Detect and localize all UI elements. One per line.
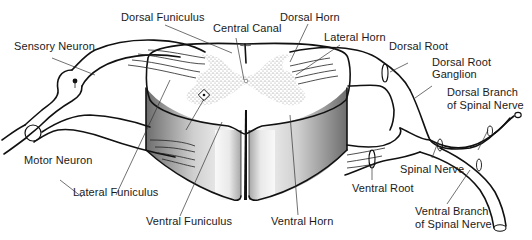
label-central-canal: Central Canal (213, 22, 282, 35)
label-ventral-horn: Ventral Horn (271, 215, 333, 228)
label-dorsal-branch-line1: Dorsal Branch (447, 86, 518, 99)
label-ventral-root: Ventral Root (352, 182, 414, 195)
label-dorsal-branch-line2: of Spinal Nerve (447, 99, 524, 112)
label-lateral-funiculus: Lateral Funiculus (73, 186, 158, 199)
label-sensory-neuron: Sensory Neuron (14, 40, 95, 53)
spinal-cord-diagram (0, 0, 532, 240)
label-ventral-funiculus: Ventral Funiculus (146, 215, 232, 228)
label-dorsal-root-ganglion-line2: Ganglion (432, 68, 477, 81)
label-lateral-horn: Lateral Horn (324, 31, 386, 44)
label-spinal-nerve: Spinal Nerve (400, 163, 464, 176)
label-dorsal-funiculus: Dorsal Funiculus (121, 11, 205, 24)
label-motor-neuron: Motor Neuron (24, 154, 92, 167)
label-dorsal-root: Dorsal Root (389, 40, 448, 53)
label-ventral-branch-line1: Ventral Branch (415, 205, 489, 218)
label-ventral-branch-line2: of Spinal Nerve (415, 218, 492, 231)
label-dorsal-horn: Dorsal Horn (280, 11, 340, 24)
